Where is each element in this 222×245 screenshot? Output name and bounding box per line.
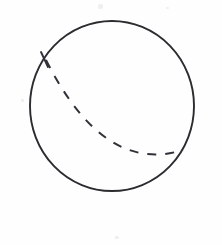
scan-speck xyxy=(166,7,169,9)
scan-speck xyxy=(21,99,24,102)
scan-speck xyxy=(98,4,103,9)
sphere-diagram xyxy=(0,0,222,245)
figure-canvas xyxy=(0,0,222,245)
scan-speck xyxy=(115,236,119,239)
sphere-outline xyxy=(30,21,194,191)
hidden-great-circle-arc xyxy=(46,60,183,154)
